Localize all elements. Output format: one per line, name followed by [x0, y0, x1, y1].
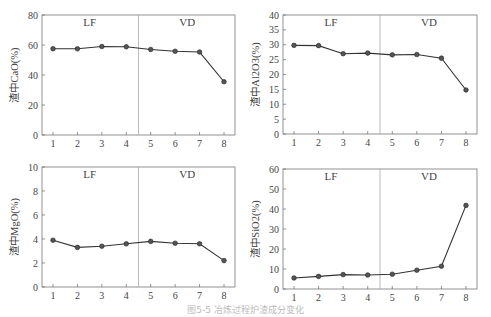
- data-point: [439, 56, 444, 61]
- data-point: [197, 242, 202, 247]
- x-tick-label: 7: [197, 138, 202, 149]
- x-tick-label: 2: [316, 137, 321, 148]
- x-tick-label: 5: [148, 290, 153, 301]
- y-tick-label: 50: [269, 184, 279, 195]
- y-tick-label: 10: [28, 162, 38, 173]
- chart-cao: 02040608012345678LFVD渣中CaO(%): [8, 10, 235, 150]
- data-point: [415, 268, 420, 273]
- x-tick-label: 3: [99, 290, 104, 301]
- data-point: [222, 79, 227, 84]
- y-tick-label: 20: [269, 244, 279, 255]
- y-tick-label: 4: [33, 234, 38, 245]
- data-point: [415, 52, 420, 57]
- data-point: [75, 245, 80, 250]
- y-tick-label: 40: [269, 10, 279, 21]
- y-tick-label: 0: [274, 284, 279, 295]
- data-point: [365, 273, 370, 278]
- region-label-lf: LF: [325, 16, 338, 28]
- data-point: [390, 53, 395, 58]
- y-tick-label: 6: [33, 210, 38, 221]
- x-tick-label: 8: [222, 138, 227, 149]
- region-label-lf: LF: [83, 168, 96, 180]
- data-point: [75, 46, 80, 51]
- x-tick-label: 3: [99, 138, 104, 149]
- y-tick-label: 0: [274, 129, 279, 140]
- x-tick-label: 5: [148, 138, 153, 149]
- region-label-lf: LF: [83, 16, 96, 28]
- data-point: [316, 43, 321, 48]
- y-tick-label: 40: [269, 204, 279, 215]
- y-axis-label: 渣中MgO(%): [8, 198, 21, 256]
- x-tick-label: 4: [365, 292, 370, 303]
- x-tick-label: 6: [173, 138, 178, 149]
- x-tick-label: 8: [464, 137, 469, 148]
- y-tick-label: 25: [269, 54, 279, 65]
- x-tick-label: 3: [341, 137, 346, 148]
- x-tick-label: 2: [75, 138, 80, 149]
- data-point: [222, 258, 227, 263]
- x-tick-label: 1: [51, 138, 56, 149]
- y-tick-label: 30: [269, 224, 279, 235]
- data-point: [341, 272, 346, 277]
- x-tick-label: 1: [51, 290, 56, 301]
- x-tick-label: 6: [414, 292, 419, 303]
- x-tick-label: 5: [390, 137, 395, 148]
- data-point: [292, 276, 297, 281]
- data-point: [390, 272, 395, 277]
- y-tick-label: 20: [28, 100, 38, 111]
- x-tick-label: 7: [197, 290, 202, 301]
- y-tick-label: 40: [28, 70, 38, 81]
- data-point: [439, 264, 444, 269]
- y-axis-label: 渣中Al2O3(%): [249, 42, 262, 107]
- x-tick-label: 7: [439, 292, 444, 303]
- data-point: [365, 51, 370, 56]
- y-tick-label: 60: [28, 40, 38, 51]
- data-point: [292, 43, 297, 48]
- x-tick-label: 4: [124, 138, 129, 149]
- region-label-vd: VD: [421, 170, 437, 182]
- y-axis-label: 渣中CaO(%): [8, 47, 21, 102]
- x-tick-label: 6: [414, 137, 419, 148]
- chart-grid: 02040608012345678LFVD渣中CaO(%)05101520253…: [0, 0, 491, 317]
- data-point: [173, 49, 178, 54]
- x-tick-label: 6: [173, 290, 178, 301]
- x-tick-label: 1: [292, 292, 297, 303]
- data-point: [124, 242, 129, 247]
- y-tick-label: 10: [269, 99, 279, 110]
- data-point: [51, 238, 56, 243]
- data-point: [464, 203, 469, 208]
- y-tick-label: 20: [269, 69, 279, 80]
- y-tick-label: 0: [33, 282, 38, 293]
- x-tick-label: 4: [124, 290, 129, 301]
- chart-sio2: 010203040506012345678LFVD渣中SiO2(%): [249, 164, 477, 304]
- x-tick-label: 8: [464, 292, 469, 303]
- data-point: [100, 244, 105, 249]
- region-label-vd: VD: [179, 16, 195, 28]
- y-axis-label: 渣中SiO2(%): [249, 200, 262, 258]
- y-tick-label: 80: [28, 10, 38, 21]
- y-tick-label: 0: [33, 130, 38, 141]
- figure-caption: 图5-5 冶炼过程炉渣成分变化: [0, 303, 491, 316]
- chart-mgo: 024681012345678LFVD渣中MgO(%): [8, 162, 235, 302]
- x-tick-label: 2: [316, 292, 321, 303]
- data-point: [51, 46, 56, 51]
- x-tick-label: 1: [292, 137, 297, 148]
- data-point: [148, 239, 153, 244]
- data-point: [316, 274, 321, 279]
- y-tick-label: 30: [269, 39, 279, 50]
- region-label-lf: LF: [325, 170, 338, 182]
- x-tick-label: 3: [341, 292, 346, 303]
- data-point: [173, 241, 178, 246]
- data-point: [124, 45, 129, 50]
- chart-al2o3: 051015202530354012345678LFVD渣中Al2O3(%): [249, 10, 477, 149]
- y-tick-label: 5: [274, 114, 279, 125]
- y-tick-label: 2: [33, 258, 38, 269]
- region-label-vd: VD: [179, 168, 195, 180]
- data-point: [464, 88, 469, 93]
- y-tick-label: 8: [33, 186, 38, 197]
- y-tick-label: 15: [269, 84, 279, 95]
- region-label-vd: VD: [421, 16, 437, 28]
- x-tick-label: 7: [439, 137, 444, 148]
- x-tick-label: 5: [390, 292, 395, 303]
- y-tick-label: 35: [269, 24, 279, 35]
